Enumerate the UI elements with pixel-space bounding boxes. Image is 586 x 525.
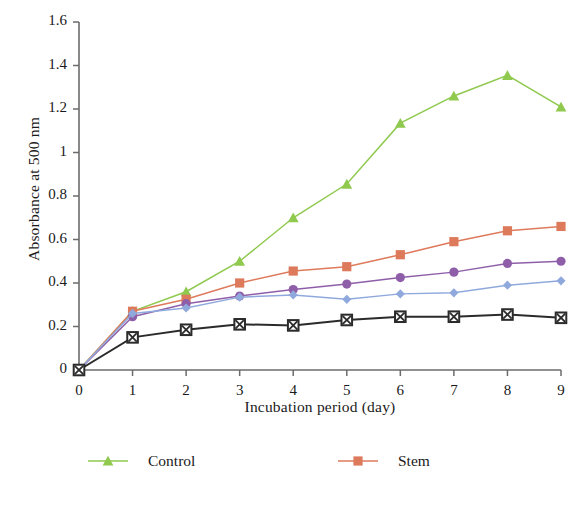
x-tick-label: 1 <box>118 382 148 399</box>
data-point-marker <box>342 279 351 288</box>
data-point-marker <box>556 257 565 266</box>
triangle-marker-icon <box>86 451 130 471</box>
data-point-marker <box>449 288 458 297</box>
data-point-marker <box>395 118 406 128</box>
data-point-marker <box>396 250 405 259</box>
legend-item-control[interactable]: Control <box>86 448 326 474</box>
x-tick-label: 0 <box>64 382 94 399</box>
square-marker-icon <box>336 451 380 471</box>
series-control <box>79 70 566 370</box>
data-point-marker <box>556 102 567 112</box>
y-tick-label: 0.6 <box>21 230 67 247</box>
y-tick-label: 0.4 <box>21 273 67 290</box>
series-line <box>79 281 561 370</box>
data-point-marker <box>556 313 567 324</box>
data-point-marker <box>74 365 85 376</box>
x-tick-label: 5 <box>332 382 362 399</box>
y-tick-label: 1.6 <box>21 12 67 29</box>
data-point-marker <box>449 268 458 277</box>
data-point-marker <box>449 311 460 322</box>
x-tick-label: 3 <box>225 382 255 399</box>
data-point-marker <box>353 456 362 465</box>
x-tick-label: 2 <box>171 382 201 399</box>
series-line <box>79 75 561 370</box>
series-stem <box>79 222 566 370</box>
data-point-marker <box>127 332 138 343</box>
data-point-marker <box>503 281 512 290</box>
chart-figure: Absorbance at 500 nm Incubation period (… <box>0 0 586 525</box>
x-axis-title: Incubation period (day) <box>79 398 561 416</box>
data-point-marker <box>503 226 512 235</box>
data-point-marker <box>556 222 565 231</box>
y-tick-label: 1 <box>21 143 67 160</box>
data-point-marker <box>342 295 351 304</box>
series-line <box>79 315 561 370</box>
data-point-marker <box>288 320 299 331</box>
data-point-marker <box>556 276 565 285</box>
data-point-marker <box>395 311 406 322</box>
x-tick-label: 9 <box>546 382 576 399</box>
y-tick-label: 1.2 <box>21 99 67 116</box>
y-tick-label: 0.8 <box>21 186 67 203</box>
series-ascorbic-acid <box>79 309 566 370</box>
data-point-marker <box>396 273 405 282</box>
data-point-marker <box>502 309 513 320</box>
y-tick-label: 0.2 <box>21 317 67 334</box>
y-tick-label: 0 <box>21 360 67 377</box>
plot-area <box>0 0 586 440</box>
data-point-marker <box>342 262 351 271</box>
x-tick-label: 8 <box>492 382 522 399</box>
legend-label: Control <box>148 452 195 470</box>
data-point-marker <box>234 319 245 330</box>
data-point-marker <box>449 237 458 246</box>
chart-legend: ControlStemSeedLeafAscorbic acid <box>86 448 576 474</box>
data-point-marker <box>181 324 192 335</box>
data-point-marker <box>289 266 298 275</box>
series-seed <box>79 257 566 370</box>
data-point-marker <box>502 70 513 80</box>
data-point-marker <box>396 289 405 298</box>
data-point-marker <box>341 315 352 326</box>
legend-item-stem[interactable]: Stem <box>336 448 576 474</box>
x-tick-label: 6 <box>385 382 415 399</box>
data-point-marker <box>235 278 244 287</box>
x-tick-label: 7 <box>439 382 469 399</box>
data-point-marker <box>503 259 512 268</box>
data-point-marker <box>288 213 299 223</box>
legend-label: Stem <box>398 452 430 470</box>
series-line <box>79 226 561 370</box>
data-point-marker <box>448 91 459 101</box>
x-tick-label: 4 <box>278 382 308 399</box>
y-tick-label: 1.4 <box>21 56 67 73</box>
